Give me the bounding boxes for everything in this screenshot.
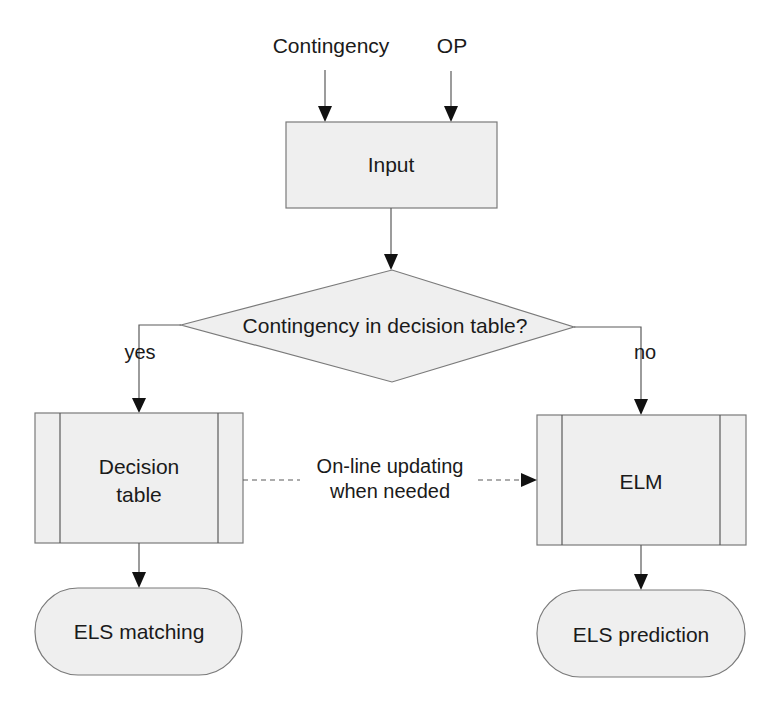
arrowhead-icon — [384, 254, 398, 270]
els-prediction-label: ELS prediction — [573, 623, 710, 646]
online-updating-label-line1: On-line updating — [317, 455, 464, 477]
contingency-arrow — [318, 70, 332, 122]
contingency-input-label: Contingency — [273, 34, 390, 57]
arrowhead-icon — [634, 399, 648, 415]
arrowhead-icon — [521, 473, 537, 487]
input-to-decision-arrow — [384, 208, 398, 270]
decision-table-to-els-matching-arrow — [132, 543, 146, 588]
arrowhead-icon — [132, 572, 146, 588]
no-label: no — [634, 341, 656, 363]
els-prediction-node: ELS prediction — [537, 590, 745, 677]
flowchart: Contingency OP Input Contingency in deci… — [0, 0, 773, 705]
input-node-label: Input — [368, 153, 415, 176]
input-node: Input — [286, 122, 497, 208]
op-arrow — [444, 71, 458, 122]
arrowhead-icon — [132, 398, 146, 413]
arrowhead-icon — [444, 106, 458, 122]
elm-to-els-prediction-arrow — [634, 545, 648, 590]
arrowhead-icon — [318, 106, 332, 122]
decision-node: Contingency in decision table? — [181, 270, 574, 382]
yes-branch-arrow — [132, 325, 181, 413]
els-matching-label: ELS matching — [74, 620, 205, 643]
online-updating-label-line2: when needed — [329, 480, 450, 502]
els-matching-node: ELS matching — [35, 588, 242, 675]
decision-table-label-line1: Decision — [99, 455, 180, 478]
elm-node: ELM — [537, 415, 746, 545]
arrowhead-icon — [634, 574, 648, 590]
op-input-label: OP — [437, 34, 467, 57]
decision-node-label: Contingency in decision table? — [243, 314, 528, 337]
decision-table-label-line2: table — [116, 483, 162, 506]
yes-label: yes — [124, 341, 155, 363]
elm-node-label: ELM — [619, 470, 662, 493]
decision-table-node: Decision table — [35, 413, 243, 543]
